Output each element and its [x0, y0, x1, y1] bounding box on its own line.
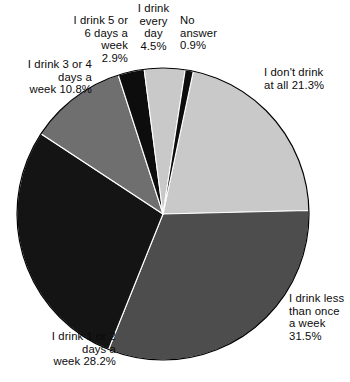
pie-chart-canvas: I don't drink at all 21.3%I drink less t… [0, 0, 350, 382]
pie-chart: I don't drink at all 21.3%I drink less t… [0, 0, 350, 382]
pie-slices-group: I don't drink at all 21.3%I drink less t… [17, 68, 309, 360]
